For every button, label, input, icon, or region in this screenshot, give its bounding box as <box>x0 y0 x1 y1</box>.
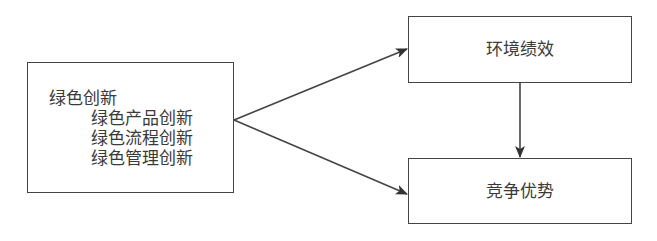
node-green-product-innovation: 绿色产品创新 <box>91 108 193 128</box>
node-competitive-advantage-label: 竞争优势 <box>408 181 632 201</box>
node-green-innovation-title: 绿色创新 <box>49 88 117 108</box>
arrow-innovation-to-advantage <box>234 120 407 194</box>
node-green-management-innovation: 绿色管理创新 <box>91 148 193 168</box>
node-environmental-performance-label: 环境绩效 <box>408 39 632 59</box>
arrow-innovation-to-performance <box>234 49 407 120</box>
node-green-process-innovation: 绿色流程创新 <box>91 128 193 148</box>
